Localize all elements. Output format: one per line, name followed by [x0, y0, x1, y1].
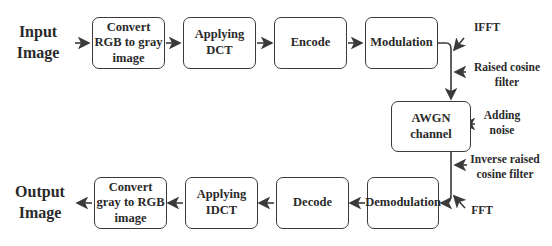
- decode-box: Decode: [276, 177, 349, 229]
- encode-box: Encode: [274, 17, 347, 69]
- block-diagram: Input Image Convert RGB to gray image Ap…: [0, 0, 552, 246]
- adding-noise-annotation: Adding noise: [477, 108, 527, 138]
- output-image-label: Output Image: [4, 182, 76, 224]
- applying-dct-box: Applying DCT: [183, 17, 256, 69]
- convert-rgb-to-gray-box: Convert RGB to gray image: [92, 17, 165, 69]
- convert-gray-to-rgb-box: Convert gray to RGB image: [94, 177, 167, 229]
- modulation-box: Modulation: [365, 17, 438, 69]
- awgn-channel-box: AWGN channel: [391, 101, 471, 152]
- demodulation-box: Demodulation: [367, 177, 439, 229]
- inverse-raised-cosine-filter-annotation: Inverse raised cosine filter: [458, 152, 552, 182]
- ifft-annotation: IFFT: [467, 20, 507, 35]
- input-image-label: Input Image: [2, 22, 74, 64]
- fft-annotation: FFT: [466, 203, 498, 218]
- raised-cosine-filter-annotation: Raised cosine filter: [462, 60, 552, 90]
- applying-idct-box: Applying IDCT: [185, 177, 258, 229]
